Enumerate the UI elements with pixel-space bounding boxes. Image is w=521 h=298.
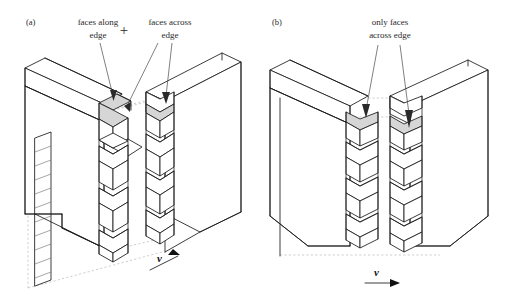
annotation-faces-across-edge-line2: edge xyxy=(162,30,179,40)
tooth-pair-ar1 xyxy=(146,133,174,176)
tooth-pair-ar2 xyxy=(146,171,174,214)
panel-b: (b) only faces across edge v xyxy=(270,17,488,287)
tooth-column-a-left xyxy=(99,94,142,262)
tooth-pair-br3 xyxy=(390,217,422,252)
panel-label-b: (b) xyxy=(272,17,282,27)
tooth-column-b-left xyxy=(346,112,378,248)
annotation-faces-along-edge-line2: edge xyxy=(90,30,107,40)
annotation-only-faces-line2: across edge xyxy=(369,30,411,40)
annotation-faces-across-edge-line1: faces across xyxy=(148,17,192,27)
tooth-pair-bl2 xyxy=(346,177,378,218)
annotation-only-faces-line1: only faces xyxy=(372,17,409,27)
tooth-column-a-right xyxy=(146,92,174,244)
figure-container: (a) faces along edge + faces across edge… xyxy=(0,0,521,298)
velocity-label-a: v xyxy=(157,252,162,264)
tooth-pair-br1 xyxy=(390,145,422,186)
tooth-pair-a2 xyxy=(99,187,128,232)
tooth-pair-bl1 xyxy=(346,141,378,182)
annotation-faces-along-edge-line1: faces along xyxy=(78,17,119,27)
plus-operator-a: + xyxy=(120,22,128,38)
panel-label-a: (a) xyxy=(26,17,36,27)
panel-a: (a) faces along edge + faces across edge… xyxy=(25,17,241,288)
velocity-arrow-b: v xyxy=(365,266,400,287)
tooth-pair-a1 xyxy=(99,145,128,190)
tooth-pair-bl3 xyxy=(346,213,378,248)
velocity-label-b: v xyxy=(374,266,379,278)
tooth-pair-br2 xyxy=(390,181,422,222)
tooth-pair-a3 xyxy=(99,229,128,262)
figure-svg: (a) faces along edge + faces across edge… xyxy=(0,0,521,298)
